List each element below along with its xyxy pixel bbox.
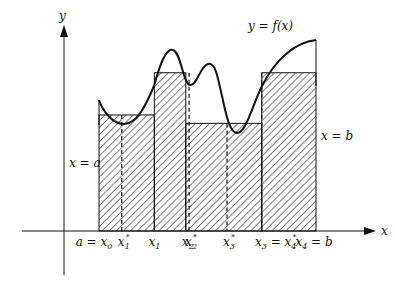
- tick-label-x0: a = x0: [76, 235, 113, 251]
- curve-label: y = f(x): [247, 19, 293, 33]
- riemann-sum-diagram: x y y = f(x) x = a x = b a = x0x1x2x3 = …: [0, 0, 395, 285]
- tick-label-x3: x3 = x4*: [255, 233, 296, 251]
- riemann-rectangle-1: [99, 115, 154, 231]
- riemann-rectangle-4: [262, 73, 316, 231]
- tick-label-x2s: x2*: [185, 233, 197, 251]
- riemann-rectangle-3: [186, 123, 262, 231]
- y-axis-arrow-icon: [60, 25, 68, 37]
- tick-label-x4: x4 = b: [295, 235, 332, 251]
- right-bound-label: x = b: [321, 129, 353, 143]
- tick-label-x1: x1: [148, 235, 160, 251]
- x-axis-label: x: [381, 224, 388, 238]
- tick-label-x3s: x3*: [223, 233, 235, 251]
- left-bound-label: x = a: [69, 156, 101, 170]
- tick-label-x1s: x1*: [118, 233, 130, 251]
- y-axis-label: y: [58, 9, 66, 23]
- x-axis-arrow-icon: [364, 227, 376, 235]
- riemann-rectangle-2: [154, 73, 185, 231]
